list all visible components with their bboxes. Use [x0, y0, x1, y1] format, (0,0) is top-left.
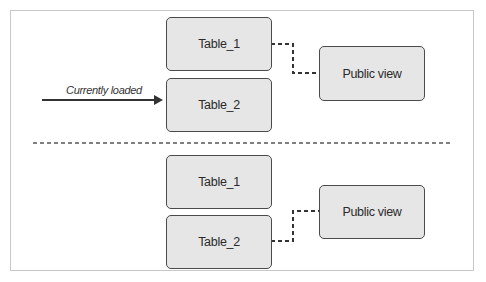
dashed-connector-top [271, 44, 319, 73]
bottom-public-view-label: Public view [342, 205, 401, 219]
bottom-table-2-label: Table_2 [198, 235, 240, 249]
top-public-view-box: Public view [319, 46, 425, 101]
top-public-view-label: Public view [342, 67, 401, 81]
bottom-public-view-box: Public view [319, 185, 425, 239]
top-table-2-box: Table_2 [166, 78, 272, 132]
top-table-2-label: Table_2 [198, 98, 240, 112]
bottom-table-2-box: Table_2 [166, 215, 272, 269]
top-table-1-label: Table_1 [198, 37, 240, 51]
arrowhead-icon [154, 95, 163, 105]
bottom-table-1-label: Table_1 [198, 175, 240, 189]
currently-loaded-label: Currently loaded [66, 84, 142, 96]
top-table-1-box: Table_1 [166, 17, 272, 71]
bottom-table-1-box: Table_1 [166, 155, 272, 209]
dashed-connector-bottom [271, 211, 319, 241]
